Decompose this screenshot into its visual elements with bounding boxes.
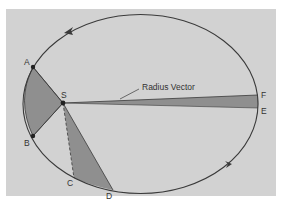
- sun-marker: [61, 101, 66, 106]
- radius-vector-leader: [120, 89, 139, 99]
- label-b: B: [24, 138, 30, 148]
- label-s: S: [61, 90, 67, 100]
- sector-a-b: [25, 67, 64, 136]
- label-d: D: [106, 191, 112, 201]
- point-a-marker: [31, 65, 35, 69]
- label-a: A: [24, 57, 30, 67]
- label-radius-vector: Radius Vector: [142, 82, 195, 92]
- label-e: E: [261, 106, 267, 116]
- label-c: C: [67, 178, 73, 188]
- arrow-icon-bottom: [225, 161, 232, 168]
- label-f: F: [261, 90, 266, 100]
- point-b-marker: [31, 134, 35, 138]
- kepler-orbit-diagram: A B S C D F E Radius Vector: [0, 0, 282, 208]
